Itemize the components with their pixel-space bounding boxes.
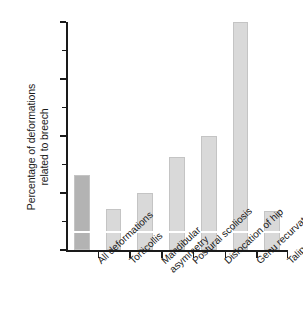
bar-inner-marker-line: [74, 231, 90, 233]
bar-chart: Percentage of deformations related to br…: [0, 0, 303, 333]
bar[interactable]: [74, 175, 90, 250]
bars-layer: [66, 22, 288, 250]
bar-inner-marker-line: [169, 231, 185, 233]
plot-area: 0255075100: [66, 22, 288, 250]
y-axis-title-line-2: related to breech: [38, 108, 51, 185]
y-axis-title: Percentage of deformations related to br…: [21, 47, 55, 247]
bar-inner-marker-line: [106, 231, 122, 233]
y-axis-title-line-1: Percentage of deformations: [25, 84, 38, 210]
